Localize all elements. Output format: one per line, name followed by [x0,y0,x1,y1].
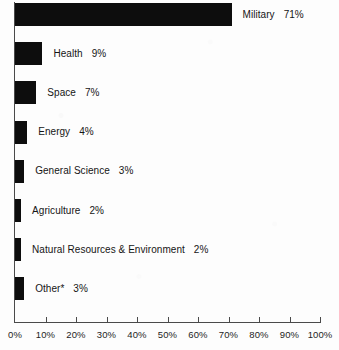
bar-value-label: 2% [194,244,209,255]
bar-category-label: Military [243,9,275,20]
horizontal-bar-chart: Military71%Health9%Space7%Energy4%Genera… [0,0,339,350]
bar-value-label: 3% [119,165,134,176]
bar [15,199,21,222]
x-axis-tick-label: 90% [280,329,299,340]
x-axis-tick-label: 10% [36,329,55,340]
x-axis-tick [320,317,321,323]
x-axis-tick [107,317,108,323]
bar-category-label: Other* [35,283,64,294]
bar [15,42,42,65]
x-axis-tick-label: 50% [158,329,177,340]
bar-category-label: General Science [35,165,110,176]
bar-label: Health9% [53,48,106,59]
bar-label: Space7% [47,87,99,98]
bar-category-label: Energy [38,126,70,137]
x-axis-tick-label: 0% [8,329,22,340]
x-axis-tick-label: 100% [308,329,333,340]
bar-category-label: Agriculture [32,205,80,216]
x-axis-tick-label: 20% [66,329,85,340]
bar-label: Other*3% [35,283,88,294]
bar-label: Energy4% [38,126,94,137]
x-axis-tick [259,317,260,323]
bar-value-label: 9% [92,48,107,59]
bar-category-label: Space [47,87,76,98]
x-axis-tick [168,317,169,323]
x-axis-tick [198,317,199,323]
bar-label: General Science3% [35,165,133,176]
bar [15,121,27,144]
bar [15,238,21,261]
plot-area: Military71%Health9%Space7%Energy4%Genera… [0,0,339,350]
x-axis-tick [76,317,77,323]
x-axis-tick-label: 60% [188,329,207,340]
x-axis-tick [290,317,291,323]
bar [15,81,36,104]
x-axis-tick-label: 80% [249,329,268,340]
bar-value-label: 3% [73,283,88,294]
x-axis-tick-label: 70% [219,329,238,340]
bar-value-label: 7% [85,87,100,98]
bar-category-label: Natural Resources & Environment [32,244,185,255]
bar-label: Military71% [243,9,304,20]
x-axis-tick [137,317,138,323]
bar [15,160,24,183]
x-axis-tick-label: 40% [127,329,146,340]
bar-label: Agriculture2% [32,205,104,216]
bar-value-label: 2% [89,205,104,216]
bar-value-label: 71% [284,9,304,20]
bar-label: Natural Resources & Environment2% [32,244,208,255]
x-axis-tick [229,317,230,323]
x-axis-tick-label: 30% [97,329,116,340]
bar [15,3,232,26]
bar [15,277,24,300]
x-axis-tick [46,317,47,323]
bar-value-label: 4% [79,126,94,137]
bar-category-label: Health [53,48,82,59]
